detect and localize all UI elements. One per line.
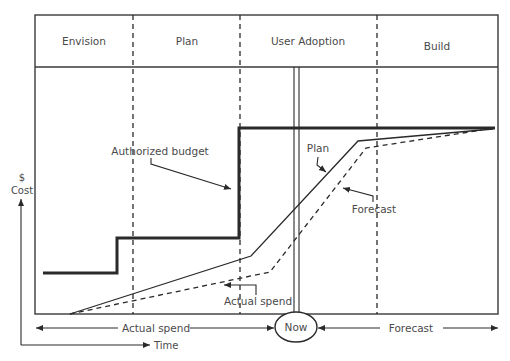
now-label: Now — [285, 321, 308, 333]
authorized-budget-label: Authorized budget — [111, 145, 208, 157]
timeline-forecast-label: Forecast — [389, 322, 433, 334]
phase-label-plan: Plan — [176, 35, 198, 47]
forecast-line — [70, 130, 482, 314]
plan-label: Plan — [307, 142, 329, 154]
phase-label-user-adoption: User Adoption — [271, 35, 345, 47]
forecast-label: Forecast — [352, 203, 396, 215]
forecast-arrow-icon — [343, 188, 373, 202]
phase-label-envision: Envision — [62, 35, 106, 47]
chart-frame — [35, 15, 498, 314]
actual-spend-inner-label: Actual spend — [224, 295, 292, 307]
plan-arrow-icon — [317, 157, 326, 172]
cost-symbol: $ — [19, 172, 25, 183]
phase-label-build: Build — [424, 40, 450, 52]
authorized-budget-arrow-icon — [151, 158, 231, 189]
cost-timeline-diagram: Envision Plan User Adoption Build Author… — [0, 0, 510, 361]
timeline-actual-spend-label: Actual spend — [122, 322, 190, 334]
cost-axis-label: Cost — [11, 185, 33, 196]
time-axis-label: Time — [153, 340, 178, 351]
